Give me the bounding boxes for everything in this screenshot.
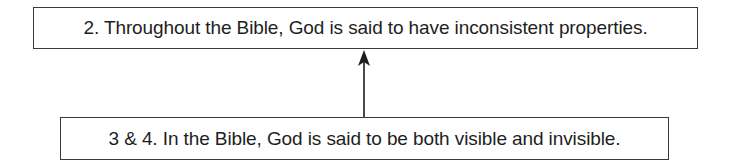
premise-box: 3 & 4. In the Bible, God is said to be b… <box>60 117 669 160</box>
premise-label: 3 & 4. In the Bible, God is said to be b… <box>109 128 621 150</box>
